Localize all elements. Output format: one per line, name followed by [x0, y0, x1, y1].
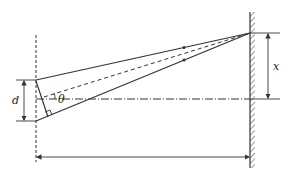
d-label: d — [12, 94, 19, 107]
angle-label: θ — [58, 93, 65, 106]
double-slit-diagram: θ d x — [0, 0, 288, 181]
lower-ray — [36, 33, 250, 121]
angle-arc — [54, 93, 55, 99]
central-ray — [44, 33, 250, 97]
upper-ray — [36, 33, 250, 80]
upper-ray-arrow — [183, 46, 186, 49]
x-label: x — [273, 60, 280, 73]
lower-ray-arrow — [183, 59, 186, 62]
screen-hatching — [250, 12, 255, 168]
